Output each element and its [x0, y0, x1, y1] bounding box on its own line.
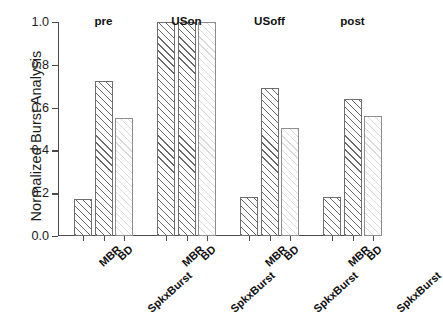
- x-tick-mark: [104, 236, 105, 241]
- y-tick-label: 0.2: [31, 186, 49, 200]
- group-label-USon: USon: [171, 14, 201, 27]
- bar-post-MBR: [323, 197, 341, 236]
- x-tick-mark: [187, 236, 188, 241]
- y-tick-mark: [52, 22, 58, 23]
- bar-pre-SpkxBurst: [115, 118, 133, 236]
- y-tick-label: 1.0: [31, 15, 49, 29]
- bar-USoff-MBR: [240, 197, 258, 236]
- plot-area: 0.00.20.40.60.81.0: [58, 22, 358, 236]
- y-tick-label: 0.8: [31, 58, 49, 72]
- x-category-label-SpkxBurst: SpkxBurst: [228, 269, 277, 315]
- x-tick-mark: [332, 236, 333, 241]
- x-tick-mark: [83, 236, 84, 241]
- y-tick-mark: [52, 65, 58, 66]
- y-tick-label: 0.6: [31, 101, 49, 115]
- y-axis-line: [58, 22, 59, 236]
- bar-pre-BD: [95, 81, 113, 236]
- bar-USoff-BD: [261, 88, 279, 236]
- x-tick-mark: [249, 236, 250, 241]
- x-category-label-SpkxBurst: SpkxBurst: [394, 269, 443, 315]
- x-tick-mark: [166, 236, 167, 241]
- group-label-USoff: USoff: [254, 14, 285, 27]
- y-tick-mark: [52, 193, 58, 194]
- y-tick-mark: [52, 236, 58, 237]
- bar-USon-BD: [178, 22, 196, 236]
- group-label-post: post: [340, 14, 364, 27]
- y-tick-label: 0.0: [31, 229, 49, 243]
- bar-pre-MBR: [74, 199, 92, 236]
- x-category-label-SpkxBurst: SpkxBurst: [145, 269, 194, 315]
- x-tick-mark: [373, 236, 374, 241]
- bar-post-BD: [344, 99, 362, 236]
- group-label-pre: pre: [94, 14, 112, 27]
- x-tick-mark: [124, 236, 125, 241]
- x-tick-mark: [270, 236, 271, 241]
- bar-USon-MBR: [157, 22, 175, 236]
- bar-post-SpkxBurst: [364, 116, 382, 236]
- y-tick-mark: [52, 108, 58, 109]
- y-tick-mark: [52, 150, 58, 151]
- bar-USon-SpkxBurst: [198, 22, 216, 236]
- x-tick-mark: [290, 236, 291, 241]
- x-tick-mark: [353, 236, 354, 241]
- x-category-label-SpkxBurst: SpkxBurst: [311, 269, 360, 315]
- bar-USoff-SpkxBurst: [281, 128, 299, 236]
- x-tick-mark: [207, 236, 208, 241]
- y-tick-label: 0.4: [31, 143, 49, 157]
